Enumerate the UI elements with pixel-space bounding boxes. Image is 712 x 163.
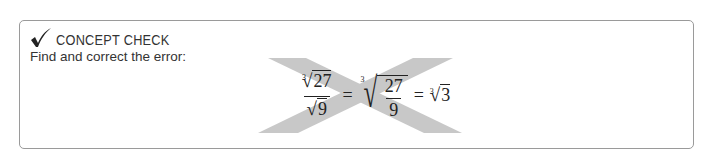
rhs-radical: 3 √ 3 xyxy=(430,84,450,106)
middle-radical: 3 √ 27 9 xyxy=(359,69,408,121)
prompt-text: Find and correct the error: xyxy=(30,49,186,64)
heading-text: CONCEPT CHECK xyxy=(56,32,170,48)
equals-sign: = xyxy=(342,85,352,106)
concept-check-heading: CONCEPT CHECK xyxy=(30,28,190,48)
formula: 3 √ 27 √ 9 = 3 √ 27 9 = xyxy=(297,65,450,125)
concept-check-box: CONCEPT CHECK Find and correct the error… xyxy=(19,20,694,149)
equals-sign: = xyxy=(414,85,424,106)
checkmark-icon xyxy=(30,28,52,48)
lhs-fraction: 3 √ 27 √ 9 xyxy=(299,70,334,120)
